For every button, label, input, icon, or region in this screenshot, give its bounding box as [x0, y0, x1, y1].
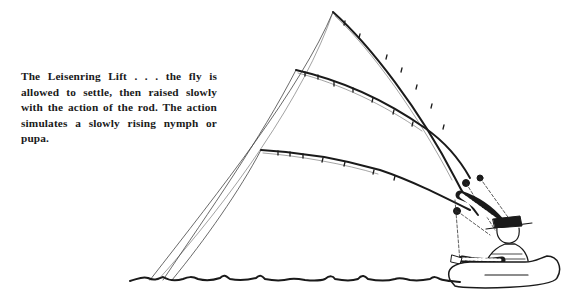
- fishing-rod-middle: [296, 70, 470, 187]
- fishing-rod-low: [261, 150, 470, 215]
- water-surface: [130, 276, 460, 282]
- leisenring-lift-illustration: [0, 0, 577, 297]
- fly-lines: [150, 12, 333, 280]
- fishing-rod-high: [333, 12, 483, 215]
